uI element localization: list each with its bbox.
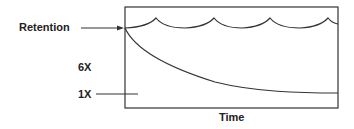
- decay-curve: [125, 28, 338, 93]
- one-x-label: 1X: [78, 89, 91, 100]
- retention-label: Retention: [19, 22, 70, 33]
- diagram-canvas: [0, 0, 354, 129]
- six-x-label: 6X: [78, 62, 91, 73]
- x-axis-label: Time: [219, 112, 244, 123]
- retention-arrowhead-icon: [117, 26, 124, 31]
- retention-scallop-curve: [125, 18, 338, 28]
